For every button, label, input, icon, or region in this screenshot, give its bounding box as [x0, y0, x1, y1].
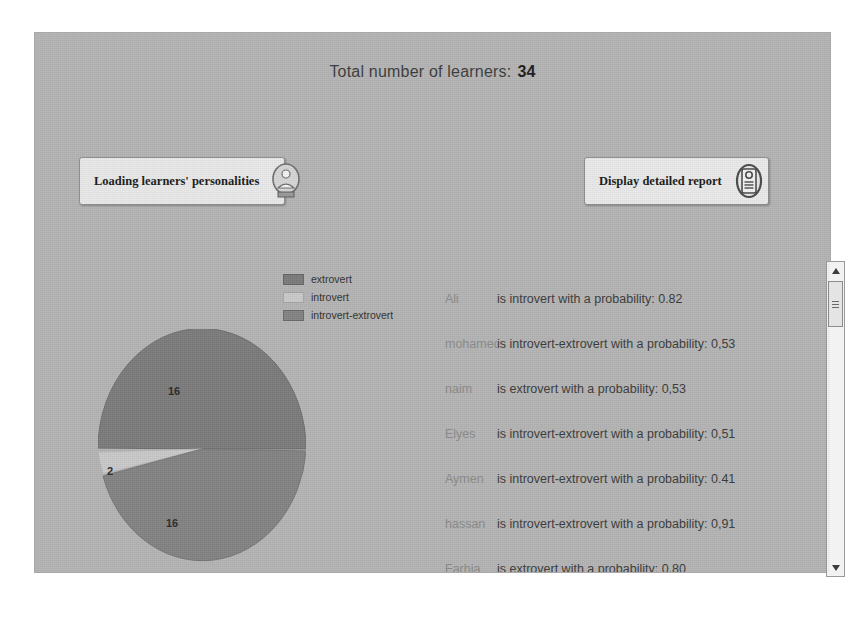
display-report-button[interactable]: Display detailed report — [584, 157, 769, 205]
learner-description: is introvert-extrovert with a probabilit… — [497, 517, 735, 531]
load-personalities-label: Loading learners' personalities — [94, 174, 259, 189]
list-item[interactable]: naim is extrovert with a probability: 0,… — [387, 366, 817, 411]
learner-name: mohamed — [387, 337, 497, 351]
chart-legend: extrovert introvert introvert-extrovert — [283, 273, 393, 327]
legend-swatch-extrovert — [283, 274, 304, 285]
learner-description: is introvert-extrovert with a probabilit… — [497, 472, 735, 486]
application-panel: Total number of learners:34 Loading lear… — [35, 33, 830, 572]
report-document-icon — [732, 162, 766, 200]
results-list[interactable]: Ali is introvert with a probability: 0.8… — [387, 258, 817, 572]
triangle-down-icon[interactable] — [827, 559, 844, 576]
legend-label-introvert: introvert — [311, 291, 349, 303]
list-item[interactable]: Ali is introvert with a probability: 0.8… — [387, 276, 817, 321]
results-scrollbar[interactable] — [826, 261, 845, 577]
learner-description: is introvert with a probability: 0.82 — [497, 292, 683, 306]
display-report-label: Display detailed report — [599, 174, 722, 189]
page-title-text: Total number of learners: — [329, 63, 511, 80]
person-badge-icon — [269, 162, 303, 200]
legend-label-introvert-extrovert: introvert-extrovert — [311, 309, 393, 321]
triangle-up-icon[interactable] — [827, 262, 844, 279]
legend-swatch-introvert-extrovert — [283, 310, 304, 321]
learner-name: hassan — [387, 517, 497, 531]
page-title: Total number of learners:34 — [35, 63, 830, 81]
learner-name: Aymen — [387, 472, 497, 486]
legend-swatch-introvert — [283, 292, 304, 303]
learner-description: is extrovert with a probability: 0.80 — [497, 562, 686, 573]
legend-item-introvert-extrovert: introvert-extrovert — [283, 309, 393, 321]
legend-item-extrovert: extrovert — [283, 273, 393, 285]
learner-name: Ali — [387, 292, 497, 306]
scrollbar-grip — [832, 301, 839, 308]
list-item[interactable]: mohamed is introvert-extrovert with a pr… — [387, 321, 817, 366]
pie-label-introvert: 2 — [107, 465, 113, 477]
list-item[interactable]: Aymen is introvert-extrovert with a prob… — [387, 456, 817, 501]
pie-label-extrovert: 16 — [168, 385, 180, 397]
load-personalities-button[interactable]: Loading learners' personalities — [79, 157, 285, 205]
scrollbar-thumb[interactable] — [828, 281, 843, 327]
pie-slice-extrovert — [98, 329, 306, 449]
learner-name: naim — [387, 382, 497, 396]
learner-count: 34 — [517, 63, 535, 80]
legend-label-extrovert: extrovert — [311, 273, 352, 285]
learner-name: Farhia — [387, 562, 497, 573]
learner-description: is introvert-extrovert with a probabilit… — [497, 337, 735, 351]
pie-label-introvert-extrovert: 16 — [166, 517, 178, 529]
list-item[interactable]: Farhia is extrovert with a probability: … — [387, 546, 817, 572]
learner-description: is introvert-extrovert with a probabilit… — [497, 427, 735, 441]
legend-item-introvert: introvert — [283, 291, 393, 303]
list-item[interactable]: hassan is introvert-extrovert with a pro… — [387, 501, 817, 546]
learner-name: Elyes — [387, 427, 497, 441]
personality-pie-chart: 16 2 16 — [98, 329, 306, 569]
learner-description: is extrovert with a probability: 0,53 — [497, 382, 686, 396]
list-item[interactable]: Elyes is introvert-extrovert with a prob… — [387, 411, 817, 456]
